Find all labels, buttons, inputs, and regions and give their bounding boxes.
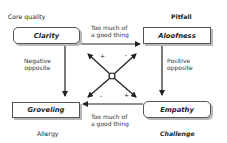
pitfall-box: Aloofness [143,27,211,44]
allergy-box: Groveling [12,102,80,118]
left-connector-label: Negative opposite [24,57,51,71]
core-quality-box: Clarity [13,27,80,44]
sign-bottom-right: + [124,91,129,98]
bottom-connector-label: Too much of a good thing [91,113,129,127]
top-connector-line2: a good thing [91,31,129,38]
allergy-label: Allergy [37,130,59,137]
center-circle [109,73,115,79]
top-connector-line1: Too much of [91,24,129,31]
right-connector-line2: opposite [167,64,193,71]
core-quality-label: Core quality [8,13,45,20]
left-connector-line2: opposite [24,64,51,71]
challenge-label: Challenge [160,130,195,137]
left-connector-line1: Negative [24,57,51,64]
bottom-connector-line2: a good thing [91,120,129,127]
sign-bottom-left: - [100,92,102,99]
bottom-connector-line1: Too much of [91,113,129,120]
diag-arrow-top-left [88,54,110,74]
right-connector-line1: Positive [167,57,193,64]
top-connector-label: Too much of a good thing [91,24,129,38]
pitfall-label: Pitfall [171,13,192,20]
challenge-box: Empathy [143,101,211,118]
sign-top-left: + [100,52,105,59]
right-connector-label: Positive opposite [167,57,193,71]
sign-top-right: - [125,51,127,58]
diag-arrow-bottom-left [88,78,110,97]
